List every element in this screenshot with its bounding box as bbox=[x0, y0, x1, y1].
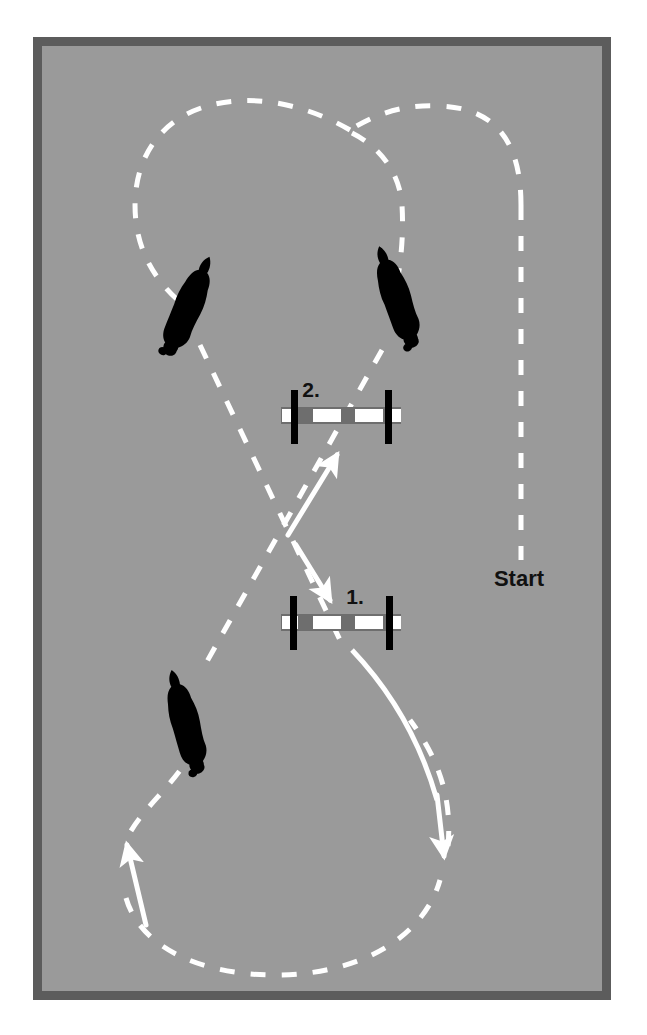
jump-1-label: 1. bbox=[346, 585, 364, 608]
jump-2-post-right bbox=[385, 390, 392, 444]
jump-2-label: 2. bbox=[302, 378, 320, 401]
jump-1-rail-seg-2 bbox=[313, 616, 341, 629]
jump-1-post-right bbox=[386, 596, 393, 650]
jump-1-post-left bbox=[290, 596, 297, 650]
course-diagram: 2. 1. Start bbox=[0, 0, 647, 1035]
course-svg: 2. 1. Start bbox=[0, 0, 647, 1035]
jump-1-rail-seg-3 bbox=[355, 616, 383, 629]
jump-2-post-left bbox=[291, 390, 298, 444]
jump-2-rail-seg-3 bbox=[355, 409, 383, 422]
jump-2-rail-seg-2 bbox=[313, 409, 341, 422]
start-label: Start bbox=[494, 566, 545, 591]
